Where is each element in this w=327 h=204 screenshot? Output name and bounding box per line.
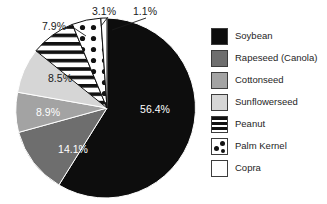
swatch-solid-black-icon bbox=[211, 28, 228, 45]
legend-label-cottonseed: Cottonseed bbox=[235, 75, 284, 85]
swatch-solid-dark-gray-icon bbox=[211, 50, 228, 67]
slice-label-rapeseed: 14.1% bbox=[58, 143, 88, 155]
swatch-solid-medium-gray-icon bbox=[211, 72, 228, 89]
legend-item-rapeseed[interactable]: Rapeseed (Canola) bbox=[211, 47, 327, 69]
legend-label-rapeseed: Rapeseed (Canola) bbox=[235, 53, 317, 63]
slice-label-copra: 1.1% bbox=[133, 5, 157, 17]
slice-label-sunflowerseed: 8.5% bbox=[48, 72, 72, 84]
swatch-solid-light-gray-icon bbox=[211, 94, 228, 111]
legend-item-palm-kernel[interactable]: Palm Kernel bbox=[211, 135, 327, 157]
legend-item-cottonseed[interactable]: Cottonseed bbox=[211, 69, 327, 91]
chart-legend: Soybean Rapeseed (Canola) Cottonseed Sun… bbox=[211, 25, 327, 179]
swatch-horizontal-stripes-icon bbox=[211, 116, 228, 133]
slice-label-cottonseed: 8.9% bbox=[36, 106, 60, 118]
swatch-white-icon bbox=[211, 160, 228, 177]
slice-label-peanut: 7.9% bbox=[42, 20, 66, 32]
legend-item-sunflowerseed[interactable]: Sunflowerseed bbox=[211, 91, 327, 113]
legend-label-palm-kernel: Palm Kernel bbox=[235, 141, 287, 151]
legend-item-soybean[interactable]: Soybean bbox=[211, 25, 327, 47]
legend-label-copra: Copra bbox=[235, 163, 261, 173]
legend-label-soybean: Soybean bbox=[235, 31, 273, 41]
slice-label-soybean: 56.4% bbox=[140, 103, 170, 115]
legend-item-peanut[interactable]: Peanut bbox=[211, 113, 327, 135]
slice-label-palm-kernel: 3.1% bbox=[92, 5, 116, 17]
pie-chart-figure: 56.4% 14.1% 8.9% 8.5% 7.9% 3.1% 1.1% Soy… bbox=[0, 0, 327, 204]
swatch-dots-icon bbox=[211, 138, 228, 155]
legend-item-copra[interactable]: Copra bbox=[211, 157, 327, 179]
legend-label-sunflowerseed: Sunflowerseed bbox=[235, 97, 298, 107]
legend-label-peanut: Peanut bbox=[235, 119, 265, 129]
